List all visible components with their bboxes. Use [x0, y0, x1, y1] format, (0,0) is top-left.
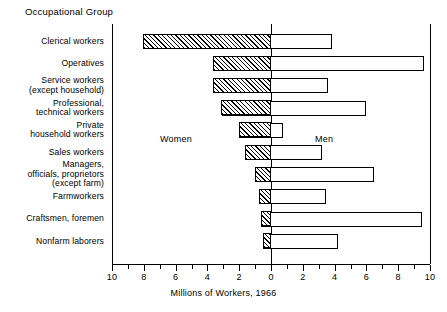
category-label: Clerical workers	[0, 37, 104, 47]
category-label: Craftsmen, foremen	[0, 214, 104, 224]
bar-segment-women	[213, 78, 270, 93]
x-tick-minor	[382, 265, 383, 269]
x-tick-major	[303, 265, 304, 271]
x-tick-major	[112, 265, 113, 271]
x-tick-minor	[255, 265, 256, 269]
bar-row	[239, 123, 283, 138]
x-tick-minor	[192, 265, 193, 269]
bar-segment-women	[221, 100, 270, 115]
x-tick-minor	[287, 265, 288, 269]
x-tick-major	[207, 265, 208, 271]
category-label: Nonfarm laborers	[0, 237, 104, 247]
bar-row	[144, 34, 332, 49]
bar-segment-women	[239, 122, 271, 137]
x-tick-label: 10	[425, 272, 435, 282]
category-label: Operatives	[0, 59, 104, 69]
bar-row	[214, 56, 424, 71]
x-tick-minor	[319, 265, 320, 269]
bar-segment-women	[213, 56, 270, 71]
bar-segment-women	[261, 211, 271, 226]
men-region-label: Men	[315, 134, 333, 144]
x-tick-minor	[414, 265, 415, 269]
bar-segment-women	[263, 233, 271, 248]
bar-row	[246, 145, 322, 160]
x-tick-label: 10	[107, 272, 117, 282]
x-tick-minor	[160, 265, 161, 269]
category-label-column: Clerical workersOperativesService worker…	[0, 24, 104, 264]
x-tick-major	[176, 265, 177, 271]
x-tick-label: 4	[332, 272, 337, 282]
bar-row	[261, 212, 422, 227]
population-pyramid-chart: Occupational Group Clerical workersOpera…	[0, 0, 447, 312]
bar-segment-women	[259, 189, 271, 204]
x-axis-label: Millions of Workers, 1966	[0, 288, 447, 298]
category-label: Sales workers	[0, 148, 104, 158]
x-tick-label: 4	[205, 272, 210, 282]
y-axis-title: Occupational Group	[25, 6, 113, 17]
x-tick-label: 6	[173, 272, 178, 282]
x-axis: 1086420246810	[112, 264, 430, 265]
bar-row	[255, 167, 374, 182]
x-tick-minor	[223, 265, 224, 269]
x-tick-major	[239, 265, 240, 271]
bar-segment-women	[245, 145, 270, 160]
x-tick-minor	[128, 265, 129, 269]
women-region-label: Women	[160, 134, 192, 144]
x-tick-major	[366, 265, 367, 271]
plot-area: Women Men	[112, 24, 430, 264]
x-tick-major	[144, 265, 145, 271]
x-tick-major	[398, 265, 399, 271]
x-tick-major	[271, 265, 272, 271]
plot-right-border	[430, 24, 431, 264]
x-tick-label: 2	[300, 272, 305, 282]
bar-row	[214, 78, 328, 93]
x-tick-major	[335, 265, 336, 271]
x-tick-major	[430, 265, 431, 271]
bar-row	[259, 189, 326, 204]
bar-segment-women	[143, 34, 270, 49]
category-label: Farmworkers	[0, 192, 104, 202]
plot-left-border	[112, 24, 113, 264]
category-label: Managers, officials, proprietors (except…	[0, 160, 104, 189]
category-label: Service workers (except household)	[0, 76, 104, 95]
x-tick-label: 0	[268, 272, 273, 282]
category-label: Private household workers	[0, 121, 104, 140]
bar-row	[222, 101, 367, 116]
bar-row	[263, 234, 338, 249]
x-tick-minor	[351, 265, 352, 269]
x-tick-label: 2	[237, 272, 242, 282]
bar-segment-women	[255, 167, 271, 182]
category-label: Professional, technical workers	[0, 99, 104, 118]
x-tick-label: 8	[396, 272, 401, 282]
x-tick-label: 8	[141, 272, 146, 282]
x-tick-label: 6	[364, 272, 369, 282]
